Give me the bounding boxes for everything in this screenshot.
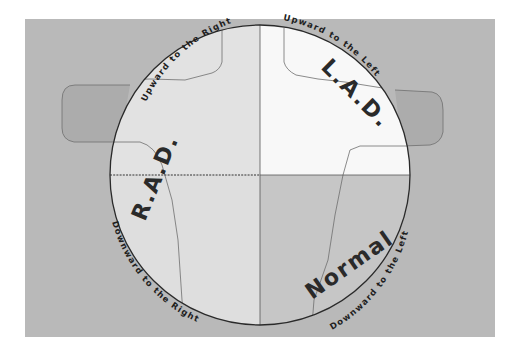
- axis-deviation-diagram: Upward to the Right Upward to the Left D…: [0, 0, 520, 354]
